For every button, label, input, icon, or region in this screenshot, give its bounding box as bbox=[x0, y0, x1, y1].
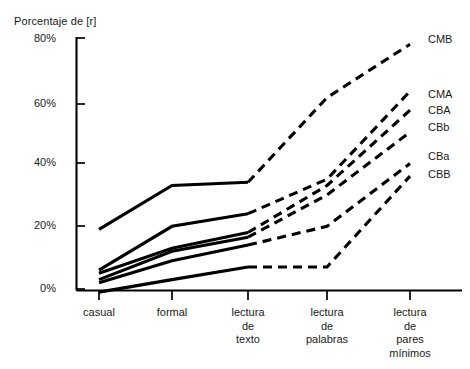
series-label-CMA: CMA bbox=[428, 88, 452, 100]
series-line-CMB-dashed bbox=[248, 44, 410, 182]
x-axis-label-lectura-texto: lectura de texto bbox=[205, 306, 291, 347]
series-line-CBA-dashed bbox=[248, 110, 410, 232]
x-axis-label-lectura-pares-line2: de bbox=[367, 320, 453, 334]
series-label-CMB: CMB bbox=[428, 33, 452, 45]
series-label-CBB: CBB bbox=[428, 168, 451, 180]
x-axis-label-lectura-palabras-line3: palabras bbox=[284, 333, 370, 347]
x-axis-label-lectura-pares-line1: lectura bbox=[367, 306, 453, 320]
x-axis-label-lectura-pares-line4: mínimos bbox=[367, 347, 453, 361]
series-label-CBA: CBA bbox=[428, 104, 451, 116]
series-group bbox=[99, 44, 410, 292]
x-axis-label-lectura-pares-line3: pares bbox=[367, 333, 453, 347]
x-axis-label-lectura-texto-line2: de bbox=[205, 320, 291, 334]
x-axis-label-formal-line1: formal bbox=[129, 306, 215, 320]
x-axis-label-lectura-palabras-line2: de bbox=[284, 320, 370, 334]
x-axis-label-lectura-pares: lectura de pares mínimos bbox=[367, 306, 453, 360]
series-line-CBA-solid bbox=[99, 233, 248, 274]
series-line-CMA-dashed bbox=[248, 91, 410, 213]
series-line-CBB-dashed bbox=[248, 176, 410, 267]
x-axis-label-lectura-palabras-line1: lectura bbox=[284, 306, 370, 320]
series-label-CBb: CBb bbox=[428, 121, 449, 133]
x-axis-label-lectura-palabras: lectura de palabras bbox=[284, 306, 370, 347]
series-label-CBa: CBa bbox=[428, 150, 449, 162]
x-axis-label-formal: formal bbox=[129, 306, 215, 320]
series-line-CMB-solid bbox=[99, 182, 248, 229]
chart-figure: Porcentaje de [r] 80% 60% 40% 20% 0% cas… bbox=[0, 0, 470, 369]
x-axis-label-lectura-texto-line3: texto bbox=[205, 333, 291, 347]
x-axis-label-lectura-texto-line1: lectura bbox=[205, 306, 291, 320]
